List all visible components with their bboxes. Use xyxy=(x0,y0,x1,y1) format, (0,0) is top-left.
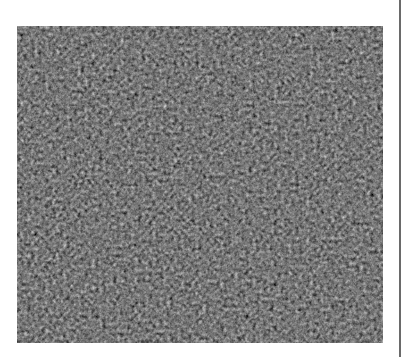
texture-image xyxy=(17,26,383,343)
right-border-rule xyxy=(399,0,401,357)
page xyxy=(0,0,404,357)
